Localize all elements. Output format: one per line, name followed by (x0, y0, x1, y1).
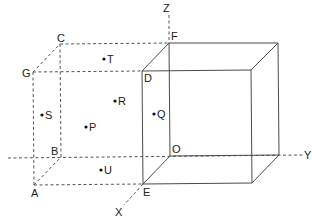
point-q: Q (152, 108, 166, 120)
edge-d-f (142, 43, 169, 71)
z-axis-label: Z (163, 2, 170, 14)
point-t-label: T (107, 53, 114, 65)
edge-top-right-diag (251, 43, 278, 70)
edge-bottom-right-diag (252, 155, 279, 183)
point-t-dot (102, 57, 105, 60)
edge-e-bottom-front-right (143, 183, 252, 184)
point-t: T (102, 53, 114, 65)
edge-back-right-vertical (278, 43, 279, 155)
point-q-label: Q (157, 108, 166, 120)
point-r: R (113, 95, 126, 107)
edge-o-e (143, 156, 170, 184)
vertex-label-b: B (51, 145, 58, 157)
point-u: U (99, 164, 112, 176)
point-q-dot (152, 112, 155, 115)
edge-d-e (142, 71, 143, 184)
edge-front-right-vertical (251, 70, 252, 183)
point-s: S (40, 109, 52, 121)
point-r-dot (113, 99, 116, 102)
y-axis-label: Y (304, 149, 312, 161)
edge-c-b (60, 44, 61, 157)
point-u-dot (99, 168, 102, 171)
vertex-label-c: C (57, 32, 65, 44)
edge-g-d (33, 71, 142, 72)
point-s-dot (40, 113, 43, 116)
edge-d-top-front-right (142, 70, 251, 71)
edge-g-a (33, 72, 34, 185)
point-r-label: R (118, 95, 126, 107)
point-s-label: S (45, 109, 52, 121)
x-axis (124, 184, 143, 205)
edge-f-o (169, 43, 170, 156)
vertex-label-g: G (22, 67, 31, 79)
point-p-label: P (89, 121, 96, 133)
x-axis-label: X (115, 206, 123, 217)
edge-c-f (60, 43, 169, 44)
vertex-label-e: E (143, 186, 150, 198)
edge-a-b (34, 157, 61, 185)
point-p-dot (84, 125, 87, 128)
point-p: P (84, 121, 96, 133)
edge-g-c (33, 44, 60, 72)
octant-diagram: Z Y X C G F D B A O E T R S P Q U (0, 0, 312, 217)
point-u-label: U (104, 164, 112, 176)
vertex-label-f: F (171, 30, 178, 42)
vertex-label-o: O (172, 143, 181, 155)
vertex-label-d: D (144, 72, 152, 84)
edge-a-e (34, 184, 143, 185)
vertex-label-a: A (31, 187, 39, 199)
